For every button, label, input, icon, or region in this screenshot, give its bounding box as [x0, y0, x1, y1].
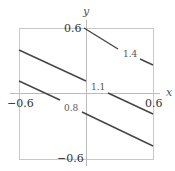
contour-plot: x y −0.6 0.6 0.6 −0.6 1.4 1.1 0.8: [0, 0, 175, 171]
x-tick-min: −0.6: [7, 97, 34, 110]
y-axis-label: y: [82, 5, 90, 18]
x-axis-label: x: [166, 86, 173, 99]
y-tick-min: −0.6: [57, 152, 84, 165]
contour-label-1-4: 1.4: [123, 49, 138, 59]
contour-line-1-4: 1.4: [84, 28, 153, 65]
contour-label-1-1: 1.1: [91, 82, 105, 92]
y-tick-max: 0.6: [64, 22, 82, 35]
contour-label-0-8: 0.8: [64, 103, 79, 113]
x-tick-max: 0.6: [145, 97, 163, 110]
